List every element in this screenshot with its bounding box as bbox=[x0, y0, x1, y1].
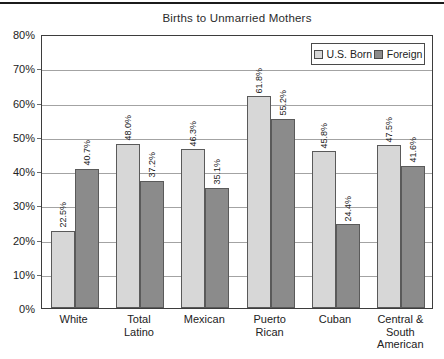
bar-foreign-5 bbox=[401, 166, 425, 308]
bar-foreign-3 bbox=[271, 119, 295, 308]
x-category-label-0: White bbox=[41, 313, 106, 326]
bar-value-label: 35.1% bbox=[211, 159, 223, 185]
bar-value-label: 24.4% bbox=[342, 196, 354, 222]
plot-area: 22.5%48.0%46.3%61.8%45.8%47.5%40.7%37.2%… bbox=[41, 35, 433, 309]
top-rule-divider bbox=[0, 2, 444, 4]
x-category-label-1: TotalLatino bbox=[106, 313, 171, 338]
y-tick-mark bbox=[37, 206, 41, 207]
x-category-label-2: Mexican bbox=[172, 313, 237, 326]
legend-entry: U.S. Born bbox=[314, 48, 373, 60]
y-tick-label: 80% bbox=[1, 29, 35, 41]
y-tick-label: 70% bbox=[1, 63, 35, 75]
x-category-label-5: Central &SouthAmerican bbox=[368, 313, 433, 351]
bar-value-label: 45.8% bbox=[318, 123, 330, 149]
y-tick-label: 40% bbox=[1, 166, 35, 178]
y-tick-mark bbox=[37, 275, 41, 276]
y-tick-label: 60% bbox=[1, 98, 35, 110]
bar-u-s-born-5 bbox=[377, 145, 401, 308]
figure-page: Births to Unmarried Mothers 22.5%48.0%46… bbox=[0, 0, 444, 359]
bar-u-s-born-4 bbox=[312, 151, 336, 308]
x-category-label-3: PuertoRican bbox=[237, 313, 302, 338]
bar-foreign-2 bbox=[205, 188, 229, 308]
bar-value-label: 47.5% bbox=[383, 117, 395, 143]
bar-foreign-4 bbox=[336, 224, 360, 308]
legend-swatch-icon bbox=[374, 50, 383, 59]
bar-value-label: 41.6% bbox=[407, 137, 419, 163]
x-category-label-4: Cuban bbox=[302, 313, 367, 326]
y-tick-label: 30% bbox=[1, 200, 35, 212]
bar-value-label: 46.3% bbox=[187, 121, 199, 147]
y-tick-mark bbox=[37, 172, 41, 173]
bar-u-s-born-2 bbox=[181, 149, 205, 308]
gridline-10 bbox=[42, 276, 432, 277]
legend-label: Foreign bbox=[387, 48, 423, 60]
legend-entry: Foreign bbox=[374, 48, 423, 60]
bar-u-s-born-1 bbox=[116, 144, 140, 308]
bar-value-label: 55.2% bbox=[277, 90, 289, 116]
y-tick-label: 20% bbox=[1, 235, 35, 247]
bar-value-label: 61.8% bbox=[253, 68, 265, 94]
gridline-40 bbox=[42, 173, 432, 174]
gridline-60 bbox=[42, 105, 432, 106]
gridline-20 bbox=[42, 242, 432, 243]
legend-swatch-icon bbox=[314, 50, 323, 59]
gridline-50 bbox=[42, 139, 432, 140]
y-tick-mark bbox=[37, 69, 41, 70]
bar-value-label: 22.5% bbox=[57, 202, 69, 228]
chart-title: Births to Unmarried Mothers bbox=[41, 12, 433, 24]
bar-value-label: 48.0% bbox=[122, 115, 134, 141]
y-tick-label: 0% bbox=[1, 303, 35, 315]
bar-foreign-1 bbox=[140, 181, 164, 308]
bar-u-s-born-0 bbox=[51, 231, 75, 308]
bar-value-label: 40.7% bbox=[81, 140, 93, 166]
bar-value-label: 37.2% bbox=[146, 152, 158, 178]
y-tick-mark bbox=[37, 241, 41, 242]
y-tick-mark bbox=[37, 104, 41, 105]
bar-foreign-0 bbox=[75, 169, 99, 308]
bar-u-s-born-3 bbox=[247, 96, 271, 308]
y-tick-label: 50% bbox=[1, 132, 35, 144]
legend-label: U.S. Born bbox=[327, 48, 373, 60]
gridline-70 bbox=[42, 70, 432, 71]
legend: U.S. BornForeign bbox=[311, 43, 425, 65]
gridline-30 bbox=[42, 207, 432, 208]
y-tick-mark bbox=[37, 138, 41, 139]
y-tick-label: 10% bbox=[1, 269, 35, 281]
